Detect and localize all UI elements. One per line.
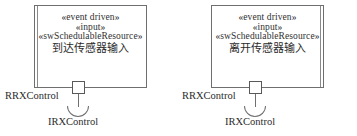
component-name: 离开传感器输入 <box>212 43 323 54</box>
port-square-left[interactable] <box>72 81 85 94</box>
provided-interface-label-left: RRXControl <box>5 90 59 101</box>
component-body: «event driven» «input» «swSchedulableRes… <box>35 13 146 54</box>
port-square-right[interactable] <box>249 81 262 94</box>
provided-interface-label-right: RRXControl <box>182 90 236 101</box>
stereotype-sw-schedulable-resource: «swSchedulableResource» <box>212 32 323 42</box>
diagram-canvas: «event driven» «input» «swSchedulableRes… <box>0 0 357 136</box>
component-name: 到达传感器输入 <box>35 43 146 54</box>
component-arrival-sensor-input[interactable]: «event driven» «input» «swSchedulableRes… <box>34 5 147 88</box>
required-interface-label-left: IRXControl <box>48 116 98 127</box>
required-interface-label-right: IRXControl <box>225 116 275 127</box>
stereotype-sw-schedulable-resource: «swSchedulableResource» <box>35 32 146 42</box>
component-departure-sensor-input[interactable]: «event driven» «input» «swSchedulableRes… <box>211 5 324 88</box>
component-body: «event driven» «input» «swSchedulableRes… <box>212 13 323 54</box>
